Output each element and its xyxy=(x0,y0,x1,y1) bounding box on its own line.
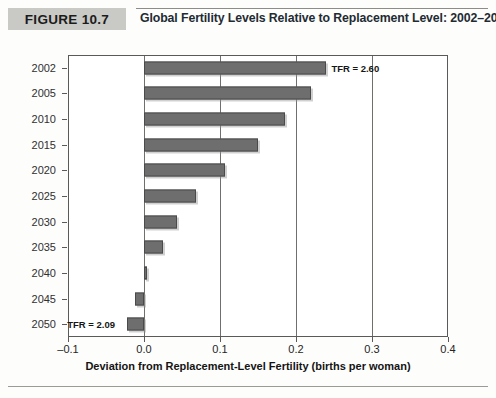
x-axis-tick-label: 0.1 xyxy=(212,343,227,355)
y-axis-tick-label: 2005 xyxy=(32,87,56,99)
bar xyxy=(144,164,225,177)
y-axis-tick-label: 2025 xyxy=(32,190,56,202)
x-axis-title: Deviation from Replacement-Level Fertili… xyxy=(0,360,496,372)
y-axis-tick xyxy=(62,222,67,223)
x-axis-tick xyxy=(372,337,373,342)
bar xyxy=(135,292,144,305)
x-axis-tick xyxy=(144,337,145,342)
y-axis: 2002200520102015202020252030203520402045… xyxy=(0,55,64,337)
figure-page: FIGURE 10.7 Global Fertility Levels Rela… xyxy=(0,0,496,398)
chart-container: 2002200520102015202020252030203520402045… xyxy=(0,0,496,398)
bar xyxy=(144,266,147,279)
x-axis-tick-label: 0.0 xyxy=(136,343,151,355)
y-axis-tick-label: 2035 xyxy=(32,241,56,253)
y-axis-tick-label: 2040 xyxy=(32,267,56,279)
x-axis-tick xyxy=(448,337,449,342)
x-axis-tick xyxy=(220,337,221,342)
y-axis-tick xyxy=(62,119,67,120)
tfr-annotation: TFR = 2.60 xyxy=(331,62,379,73)
x-axis-tick-label: 0.2 xyxy=(288,343,303,355)
y-axis-tick xyxy=(62,145,67,146)
y-axis-tick-label: 2050 xyxy=(32,318,56,330)
bar xyxy=(144,113,285,126)
y-axis-tick-label: 2045 xyxy=(32,293,56,305)
y-axis-tick xyxy=(62,324,67,325)
bar xyxy=(144,215,177,228)
y-axis-tick-label: 2015 xyxy=(32,139,56,151)
y-axis-tick xyxy=(62,170,67,171)
bar xyxy=(127,318,144,331)
x-axis-tick-label: 0.4 xyxy=(440,343,455,355)
footer-divider xyxy=(8,386,488,387)
bar xyxy=(144,138,258,151)
bar xyxy=(144,87,311,100)
x-axis-tick xyxy=(296,337,297,342)
y-axis-tick-label: 2010 xyxy=(32,113,56,125)
y-axis-tick xyxy=(62,196,67,197)
y-axis-tick xyxy=(62,247,67,248)
y-axis-tick-label: 2030 xyxy=(32,216,56,228)
y-axis-tick-label: 2002 xyxy=(32,62,56,74)
y-axis-tick xyxy=(62,273,67,274)
bar xyxy=(144,61,326,74)
x-axis-tick-label: 0.3 xyxy=(364,343,379,355)
gridline xyxy=(372,56,373,336)
bar xyxy=(144,190,196,203)
y-axis-tick xyxy=(62,299,67,300)
tfr-annotation: TFR = 2.09 xyxy=(67,319,115,330)
y-axis-tick xyxy=(62,93,67,94)
x-axis-tick xyxy=(68,337,69,342)
bar xyxy=(144,241,163,254)
x-axis-tick-label: –0.1 xyxy=(57,343,78,355)
y-axis-tick-label: 2020 xyxy=(32,164,56,176)
y-axis-tick xyxy=(62,68,67,69)
